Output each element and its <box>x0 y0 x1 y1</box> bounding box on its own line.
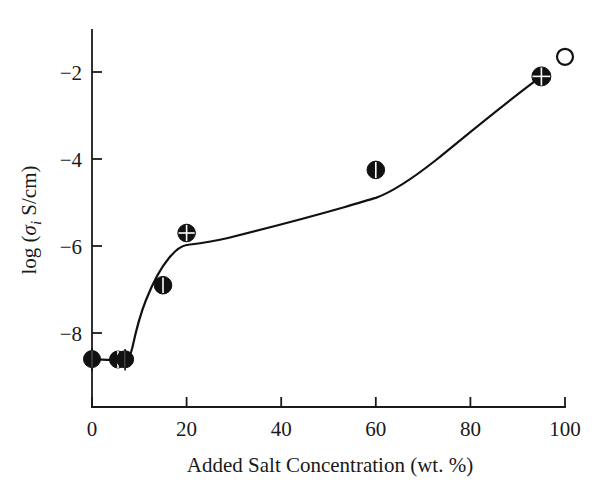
x-tick-labels: 0 20 40 60 80 100 <box>87 417 581 441</box>
y-axis-title: log (σi S/cm) <box>17 165 44 274</box>
data-point-4 <box>178 224 196 242</box>
chart-figure: −2 −4 −6 −8 0 20 40 60 80 100 Added Salt… <box>0 0 610 486</box>
y-tick-labels: −2 −4 −6 −8 <box>60 61 83 346</box>
x-tick-label-0: 0 <box>87 417 98 441</box>
x-tick-label-5: 100 <box>549 417 581 441</box>
y-tick-label-3: −8 <box>60 322 82 346</box>
svg-text:log (σi S/cm): log (σi S/cm) <box>17 165 44 274</box>
axis-lines <box>92 30 565 407</box>
x-tick-marks <box>92 397 565 407</box>
data-point-3 <box>154 276 172 294</box>
y-axis-title-prefix: log ( <box>17 235 41 274</box>
data-markers-open <box>557 49 573 65</box>
y-tick-marks <box>92 72 102 333</box>
y-tick-label-0: −2 <box>60 61 82 85</box>
x-axis-title: Added Salt Concentration (wt. %) <box>187 453 473 477</box>
x-tick-label-4: 80 <box>460 417 481 441</box>
x-tick-label-2: 40 <box>271 417 292 441</box>
data-point-open-0 <box>557 49 573 65</box>
data-point-5 <box>367 161 385 179</box>
y-tick-label-1: −4 <box>60 148 83 172</box>
data-curve <box>92 76 541 359</box>
y-tick-label-2: −6 <box>60 235 82 259</box>
x-tick-label-3: 60 <box>365 417 386 441</box>
y-axis-title-suffix: ) <box>17 165 41 172</box>
x-tick-label-1: 20 <box>176 417 197 441</box>
y-axis-title-units: S/cm <box>17 172 41 220</box>
conductivity-line-chart: −2 −4 −6 −8 0 20 40 60 80 100 Added Salt… <box>0 0 610 486</box>
data-point-0 <box>84 348 101 371</box>
data-point-6 <box>532 67 551 86</box>
data-markers-filled <box>84 67 551 371</box>
